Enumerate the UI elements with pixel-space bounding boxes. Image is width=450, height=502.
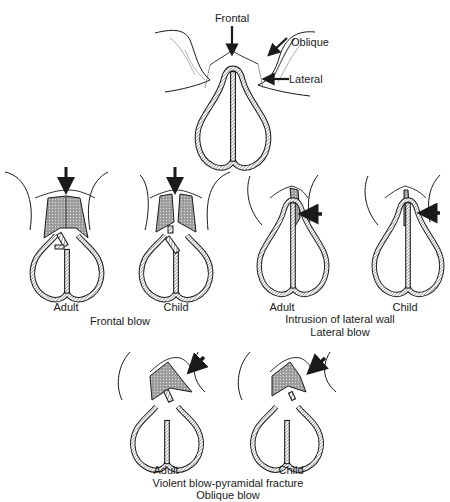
lateral-blow-adult bbox=[248, 175, 327, 294]
label-frontal-adult: Adult bbox=[53, 301, 78, 313]
oblique-blow-adult bbox=[118, 352, 205, 470]
frontal-blow-child bbox=[140, 167, 230, 300]
label-frontal-child: Child bbox=[163, 301, 188, 313]
caption-lateral-line1: Intrusion of lateral wall bbox=[285, 313, 394, 325]
nasal-fracture-diagram bbox=[0, 0, 450, 502]
label-lateral: Lateral bbox=[289, 73, 323, 85]
oblique-blow-child bbox=[238, 352, 336, 470]
label-lateral-child: Child bbox=[392, 301, 417, 313]
caption-lateral-line2: Lateral blow bbox=[310, 326, 369, 338]
label-oblique: Oblique bbox=[291, 36, 329, 48]
frontal-blow-adult bbox=[5, 167, 108, 300]
caption-frontal-blow: Frontal blow bbox=[90, 315, 150, 327]
label-lateral-adult: Adult bbox=[269, 301, 294, 313]
lateral-blow-child bbox=[365, 175, 442, 294]
label-oblique-adult: Adult bbox=[153, 464, 178, 476]
caption-oblique-line1: Violent blow-pyramidal fracture bbox=[153, 477, 304, 489]
caption-oblique-line2: Oblique blow bbox=[196, 489, 260, 501]
label-oblique-child: Child bbox=[278, 464, 303, 476]
label-frontal: Frontal bbox=[215, 12, 249, 24]
